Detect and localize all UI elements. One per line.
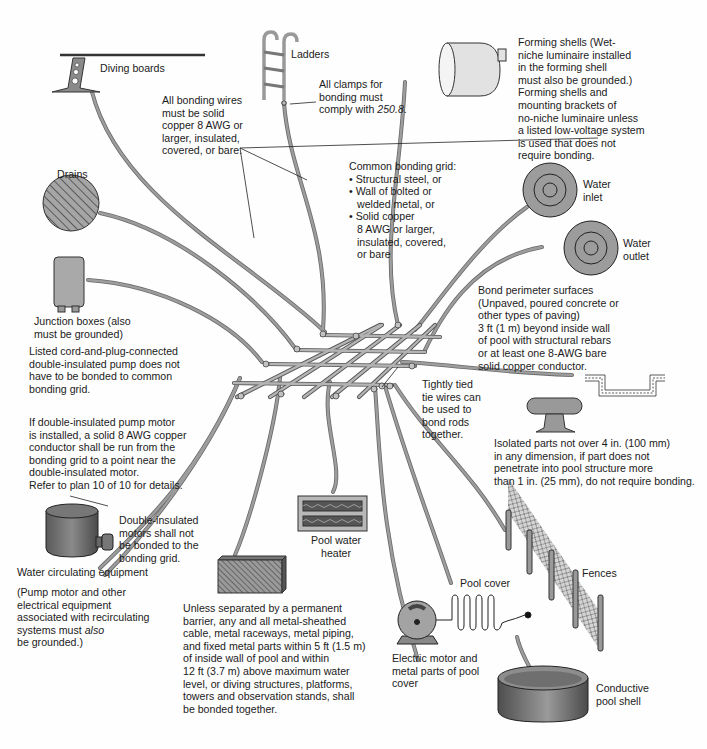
conductive-pool-shell-label: Conductive pool shell (596, 682, 649, 707)
junction-box-illustration (54, 257, 84, 312)
common-grid-item: • Structural steel, or (349, 173, 456, 186)
pump-illustration (46, 504, 113, 557)
double-insulated-pump-note: If double-insulated pump motor is instal… (29, 416, 186, 492)
pool-shell-illustration (498, 666, 588, 722)
metal-parts-illustration (218, 556, 286, 593)
metal-parts-note: Unless separated by a permanent barrier,… (183, 602, 366, 715)
junction-boxes-label: Junction boxes (also must be grounded) (34, 315, 131, 340)
common-grid-item: • Wall of bolted or welded metal, or (349, 185, 456, 210)
water-inlet-illustration (523, 163, 577, 217)
pool-wall-section (585, 375, 665, 396)
clamps-note: All clamps for bonding must comply with … (319, 78, 407, 116)
water-circulating-equipment-label: Water circulating equipment (17, 566, 148, 579)
common-bonding-grid-note: Common bonding grid: • Structural steel,… (349, 160, 456, 261)
pool-cover-label: Pool cover (460, 577, 510, 590)
isolated-parts-note: Isolated parts not over 4 in. (100 mm) i… (494, 437, 695, 487)
fence-illustration (506, 478, 603, 651)
forming-shells-note: Forming shells (Wet- niche luminaire ins… (518, 36, 645, 162)
water-outlet-illustration (564, 221, 618, 275)
drains-label: Drains (57, 168, 88, 181)
clamps-code-ref: 250.8 (377, 103, 404, 115)
pool-heater-illustration (298, 496, 367, 531)
forming-shell-illustration (439, 43, 506, 96)
pool-bonding-diagram: Diving boards Ladders All clamps for bon… (0, 0, 707, 749)
drain-illustration (43, 175, 99, 231)
electric-motor-label: Electric motor and metal parts of pool c… (392, 652, 479, 690)
recirculating-systems-note: (Pump motor and other electrical equipme… (17, 586, 149, 649)
perimeter-surfaces-note: Bond perimeter surfaces (Unpaved, poured… (478, 284, 619, 372)
fences-label: Fences (582, 567, 617, 580)
bonding-wires-note: All bonding wires must be solid copper 8… (162, 94, 243, 157)
clamps-note-text: All clamps for bonding must comply with (319, 78, 383, 115)
ladder-illustration (264, 32, 297, 105)
water-inlet-label: Water inlet (583, 178, 611, 203)
cord-plug-pump-note: Listed cord-and-plug-connected double-in… (29, 345, 180, 395)
water-outlet-label: Water outlet (623, 237, 651, 262)
common-grid-title: Common bonding grid: (349, 160, 456, 173)
diving-boards-label: Diving boards (100, 62, 165, 75)
ladders-label: Ladders (291, 48, 329, 61)
double-insulated-motors-note: Double-insulated motors shall not be bon… (119, 514, 199, 564)
pool-cover-motor-illustration (397, 595, 531, 644)
pool-water-heater-label: Pool water heater (311, 534, 361, 559)
isolated-part-illustration (527, 398, 582, 432)
common-grid-item: • Solid copper 8 AWG or larger, insulate… (349, 210, 456, 260)
clamps-note-end: . (404, 103, 407, 115)
emphasis-also: also (85, 624, 104, 636)
tie-wires-note: Tightly tied tie wires can be used to bo… (422, 378, 481, 441)
